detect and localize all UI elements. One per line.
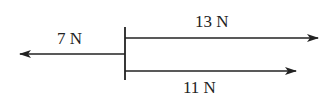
force-label-7n: 7 N [57,30,82,47]
force-diagram [0,0,334,103]
force-label-13n: 13 N [195,13,229,30]
force-label-11n: 11 N [183,79,216,96]
